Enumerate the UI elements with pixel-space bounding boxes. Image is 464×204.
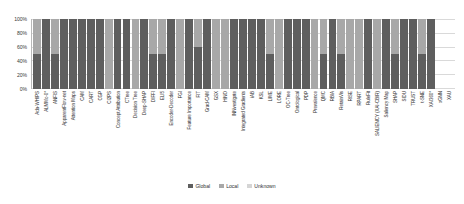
x-axis-tick-label: CTree: [123, 90, 131, 166]
x-axis-tick-text: ApparentFlow-net: [61, 91, 66, 126]
bar-segment-local: [355, 19, 363, 89]
x-axis-tick-text: ANFIS: [52, 91, 57, 104]
y-axis-tick-label: 40%: [17, 58, 27, 64]
x-axis-tick-label: TRUST: [409, 90, 417, 166]
y-axis-tick-label: 100%: [14, 16, 27, 22]
x-axis-tick-text: SIDU: [402, 91, 407, 102]
bar-column: [203, 19, 211, 89]
x-axis-tick-label: RISE: [346, 90, 354, 166]
x-axis-tick-text: RetainVis: [339, 91, 344, 110]
x-axis-tick-text: SHAP: [393, 91, 398, 103]
x-axis-tick-label: CAM: [78, 90, 86, 166]
x-axis-tick-text: QMC: [321, 91, 326, 101]
bar-column: [60, 19, 68, 89]
bar-segment-global: [248, 19, 256, 89]
x-axis-tick-label: SALIENCY (XAI-CBIR): [373, 90, 381, 166]
bar-column: [329, 19, 337, 89]
bar-segment-global: [78, 19, 86, 89]
bar-segment-global: [33, 54, 41, 89]
bar-segment-local: [311, 19, 319, 89]
x-axis-tick-text: Feature Importance: [187, 91, 192, 129]
x-axis-tick-text: Decision Tree: [133, 91, 138, 118]
x-axis-tick-text: DIFFI: [151, 91, 156, 102]
x-axis-tick-text: OC-Tree: [285, 91, 290, 108]
bar-segment-global: [42, 19, 50, 89]
bar-column: [302, 19, 310, 89]
bar-segment-global: [194, 47, 202, 89]
bar-column: [176, 19, 184, 89]
x-axis-tick-text: Saliency Map: [384, 91, 389, 117]
bar-column: [212, 19, 220, 89]
bar-column: [284, 19, 292, 89]
bar-column: [418, 19, 426, 89]
bar-segment-local: [320, 19, 328, 54]
legend-item[interactable]: Global: [188, 183, 210, 189]
x-axis-tick-text: CART: [88, 91, 93, 103]
bar-segment-global: [257, 19, 265, 89]
bar-column: [373, 19, 381, 89]
bar-segment-global: [391, 54, 399, 89]
x-axis-tick-text: RuleFit: [366, 91, 371, 105]
bar-column: [293, 19, 301, 89]
bar-segment-global: [149, 54, 157, 89]
x-axis-tick-text: KSL: [258, 91, 263, 99]
x-axis-tick-text: t-SNE: [419, 91, 424, 103]
bar-segment-global: [203, 19, 211, 89]
bar-column: [105, 19, 113, 89]
bar-column: [409, 19, 417, 89]
bar-segment-local: [266, 19, 274, 54]
legend-item[interactable]: Unknown: [247, 183, 275, 189]
x-axis-tick-text: Prevalence: [312, 91, 317, 113]
bar-column: [132, 19, 140, 89]
bar-segment-global: [185, 19, 193, 89]
x-axis-tick-label: Feature Importance: [185, 90, 193, 166]
stacked-bar-chart: 0%20%40%60%80%100% Ada-WHIPSALMMo-0*ANFI…: [0, 0, 464, 204]
bar-segment-global: [69, 19, 77, 89]
bar-column: [266, 19, 274, 89]
x-axis-tick-text: XAU: [446, 91, 451, 100]
x-axis-tick-text: LIME: [267, 91, 272, 101]
bar-segment-global: [293, 19, 301, 89]
bar-segment-local: [158, 19, 166, 54]
x-axis-tick-label: INNvestigate: [230, 90, 238, 166]
x-axis-tick-text: SALIENCY (XAI-CBIR): [375, 91, 380, 136]
bar-column: [275, 19, 283, 89]
x-axis-tick-label: DIFFI: [149, 90, 157, 166]
x-axis-tick-label: CART: [87, 90, 95, 166]
x-axis-tick-label: Deep-SHAP: [140, 90, 148, 166]
x-axis-tick-label: LORE: [275, 90, 283, 166]
legend-label: Global: [195, 183, 210, 189]
x-axis-tick-label: Decision Tree: [132, 90, 140, 166]
x-axis-tick-label: RPART: [355, 90, 363, 166]
x-axis-tick-label: Integrated Gradients: [239, 90, 247, 166]
x-axis-tick-text: FIT: [196, 91, 201, 98]
x-axis-tick-label: XAI360*: [427, 90, 435, 166]
x-axis-tick-text: Encoder-Decoder: [169, 91, 174, 126]
bar-column: [78, 19, 86, 89]
legend-item[interactable]: Local: [219, 183, 238, 189]
bar-segment-local: [105, 19, 113, 89]
bar-segment-local: [391, 19, 399, 54]
x-axis-tick-text: CI2PS: [106, 91, 111, 104]
bar-segment-global: [123, 19, 131, 89]
bar-column: [194, 19, 202, 89]
x-axis-tick-label: FGI: [176, 90, 184, 166]
x-axis-tick-text: GSX: [214, 91, 219, 100]
y-axis-labels: 0%20%40%60%80%100%: [0, 19, 29, 89]
bar-segment-local: [373, 19, 381, 89]
bar-series-container: [31, 19, 455, 89]
bar-segment-global: [60, 19, 68, 89]
bar-segment-global: [284, 19, 292, 89]
bar-segment-global: [96, 19, 104, 89]
bar-segment-global: [400, 19, 408, 89]
y-axis-tick-label: 60%: [17, 44, 27, 50]
bar-column: [320, 19, 328, 89]
x-axis-tick-label: RuleFit: [364, 90, 372, 166]
bar-segment-global: [51, 54, 59, 89]
x-axis-tick-label: KSL: [257, 90, 265, 166]
bar-column: [346, 19, 354, 89]
x-axis-tick-text: INNvestigate: [231, 91, 236, 116]
x-axis-tick-label: ApparentFlow-net: [60, 90, 68, 166]
x-axis-tick-text: ELI5: [160, 91, 165, 100]
bar-column: [230, 19, 238, 89]
